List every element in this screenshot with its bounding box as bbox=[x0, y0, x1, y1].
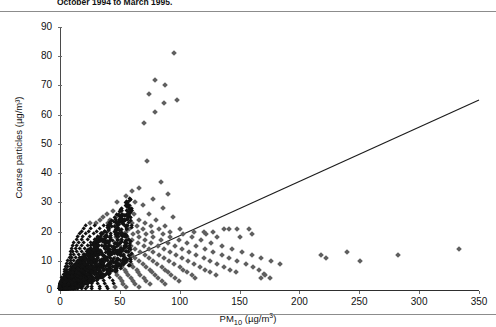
scatter-point bbox=[173, 252, 179, 258]
scatter-point bbox=[201, 255, 207, 261]
scatter-point bbox=[234, 258, 240, 264]
scatter-point bbox=[185, 258, 191, 264]
scatter-point bbox=[233, 270, 239, 276]
scatter-point bbox=[157, 226, 163, 232]
scatter-point bbox=[180, 232, 186, 238]
scatter-point bbox=[249, 232, 255, 238]
scatter-point bbox=[123, 284, 129, 290]
scatter-point bbox=[176, 237, 182, 243]
scatter-point bbox=[456, 246, 462, 252]
scatter-point bbox=[344, 249, 350, 255]
scatter-point bbox=[192, 275, 198, 281]
scatter-point bbox=[146, 91, 152, 97]
scatter-point bbox=[171, 50, 177, 56]
scatter-point bbox=[221, 226, 227, 232]
scatter-point bbox=[151, 197, 157, 203]
scatter-point bbox=[161, 246, 167, 252]
scatter-point bbox=[202, 246, 208, 252]
scatter-point bbox=[258, 275, 264, 281]
figure-caption: October 1994 to March 1995. bbox=[57, 0, 357, 8]
scatter-point bbox=[142, 220, 148, 226]
scatter-point bbox=[194, 243, 200, 249]
scatter-point bbox=[174, 97, 180, 103]
scatter-point bbox=[151, 235, 157, 241]
scatter-point bbox=[226, 255, 232, 261]
scatter-points-layer bbox=[0, 14, 496, 310]
scatter-point bbox=[160, 205, 166, 211]
scatter-point bbox=[172, 243, 178, 249]
scatter-point bbox=[152, 109, 158, 115]
scatter-point bbox=[167, 249, 173, 255]
scatter-point bbox=[136, 284, 142, 290]
scatter-point bbox=[136, 217, 142, 223]
scatter-point bbox=[198, 237, 204, 243]
scatter-point bbox=[170, 214, 176, 220]
scatter-point bbox=[256, 267, 262, 273]
scatter-point bbox=[249, 252, 255, 258]
scatter-point bbox=[92, 223, 97, 228]
scatter-point bbox=[395, 252, 401, 258]
scatter-point bbox=[161, 100, 167, 106]
scatter-point bbox=[191, 261, 197, 267]
bottom-divider-rule bbox=[0, 314, 496, 315]
scatter-point bbox=[153, 217, 159, 223]
scatter-point bbox=[208, 240, 214, 246]
scatter-point bbox=[179, 255, 185, 261]
scatter-point bbox=[115, 199, 121, 205]
scatter-point bbox=[148, 223, 154, 229]
scatter-point bbox=[237, 235, 243, 241]
scatter-point bbox=[268, 258, 274, 264]
scatter-point bbox=[112, 284, 118, 290]
scatter-point bbox=[219, 243, 225, 249]
scatter-point bbox=[165, 191, 171, 197]
scatter-point bbox=[136, 185, 142, 191]
scatter-point bbox=[207, 258, 213, 264]
scatter-point bbox=[323, 255, 329, 261]
scatter-point bbox=[214, 235, 220, 241]
scatter-point bbox=[258, 255, 264, 261]
scatter-point bbox=[186, 249, 192, 255]
scatter-point bbox=[158, 179, 164, 185]
scatter-point bbox=[179, 246, 185, 252]
top-divider-rule bbox=[0, 11, 496, 12]
scatter-point bbox=[221, 264, 227, 270]
scatter-point bbox=[250, 264, 256, 270]
scatter-point bbox=[213, 273, 219, 279]
scatter-point bbox=[133, 199, 139, 205]
scatter-point bbox=[171, 261, 177, 267]
scatter-point bbox=[277, 261, 283, 267]
scatter-point bbox=[134, 223, 140, 229]
scatter-point bbox=[145, 159, 151, 165]
scatter-point bbox=[141, 121, 147, 127]
scatter-point bbox=[214, 261, 220, 267]
scatter-point bbox=[267, 275, 273, 281]
scatter-point bbox=[140, 226, 146, 232]
scatter-point bbox=[165, 240, 171, 246]
scatter-point bbox=[358, 258, 364, 264]
scatter-point bbox=[210, 229, 216, 235]
scatter-point bbox=[210, 249, 216, 255]
scatter-point bbox=[152, 77, 158, 83]
scatter-point bbox=[147, 281, 153, 287]
scatter-point bbox=[146, 211, 152, 217]
y-axis-title: Coarse particles (µg/m³) bbox=[13, 68, 24, 228]
scatter-point bbox=[239, 249, 245, 255]
scatter-point bbox=[129, 188, 135, 194]
scatter-point bbox=[97, 286, 102, 291]
scatter-point bbox=[234, 226, 240, 232]
scatter-point bbox=[194, 252, 200, 258]
scatter-point bbox=[140, 202, 146, 208]
scatter-point bbox=[163, 281, 169, 287]
scatter-point bbox=[163, 223, 169, 229]
scatter-point bbox=[243, 261, 249, 267]
scatter-point bbox=[135, 240, 141, 246]
scatter-point bbox=[163, 83, 169, 89]
scatter-point bbox=[189, 235, 195, 241]
scatter-point bbox=[176, 278, 182, 284]
plot-area: 0102030405060708090 05010015020025030035… bbox=[0, 14, 496, 310]
scatter-point bbox=[158, 237, 164, 243]
scatter-point bbox=[230, 246, 236, 252]
scatter-point bbox=[184, 240, 190, 246]
scatter-point bbox=[219, 252, 225, 258]
